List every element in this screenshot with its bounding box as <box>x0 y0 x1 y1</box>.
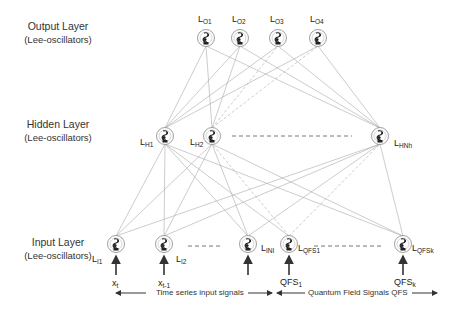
oscillator-icon-qfs1 <box>281 236 298 253</box>
node-label-hnh: LHNh <box>394 138 412 149</box>
node-label-ini: LINI <box>261 243 274 254</box>
oscillator-icon-o2 <box>232 30 249 47</box>
node-label-i1: LI1 <box>92 254 102 265</box>
node-label-qfsk: LQFSk <box>412 243 434 254</box>
edges-input-hidden <box>116 144 403 236</box>
oscillator-icon-h1 <box>157 128 174 145</box>
node-label-o3: LO3 <box>270 14 284 25</box>
signal-label-qfsk: QFSk <box>394 277 416 288</box>
oscillator-icon-o4 <box>310 30 327 47</box>
node-label-h1: LH1 <box>140 137 153 148</box>
oscillator-icon-h2 <box>204 128 221 145</box>
oscillator-icon-i2 <box>156 236 173 253</box>
time-series-caption: Time series input signals <box>156 288 244 297</box>
qfs-caption: Quantum Field Signals QFS <box>308 288 408 297</box>
node-label-o1: LO1 <box>198 14 212 25</box>
oscillator-icon-o3 <box>270 30 287 47</box>
node-label-qfs1: LQFS1 <box>298 243 320 254</box>
node-label-o2: LO2 <box>232 14 246 25</box>
network-diagram <box>0 0 456 319</box>
oscillator-icon-ini <box>240 236 257 253</box>
oscillator-icon-qfsk <box>395 236 412 253</box>
signal-label-qfs1: QFS1 <box>280 277 302 288</box>
edges-hidden-output <box>165 46 380 128</box>
oscillator-icon-o1 <box>198 30 215 47</box>
node-label-o4: LO4 <box>310 14 324 25</box>
oscillator-icon-i1 <box>108 236 125 253</box>
node-label-i2: LI2 <box>176 254 186 265</box>
oscillator-icon-hnh <box>372 128 389 145</box>
node-label-h2: LH2 <box>190 137 203 148</box>
signal-label-xt: xt <box>112 278 118 289</box>
